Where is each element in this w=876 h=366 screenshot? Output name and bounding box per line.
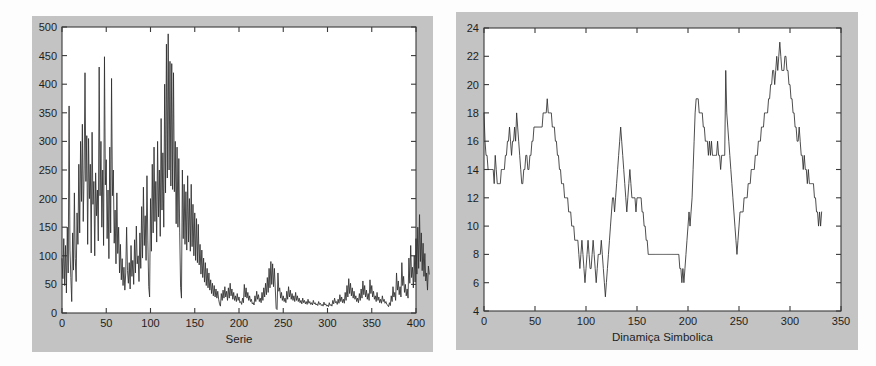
y-tick-label: 100 xyxy=(39,250,57,262)
y-tick-label: 10 xyxy=(467,220,479,232)
y-tick-label: 200 xyxy=(39,193,57,205)
y-tick-label: 250 xyxy=(39,164,57,176)
x-tick-label: 300 xyxy=(318,317,336,329)
y-tick-label: 50 xyxy=(45,278,57,290)
y-tick-label: 24 xyxy=(467,22,479,34)
x-tick-label: 100 xyxy=(577,315,595,327)
figure-page: 0501001502002503003504004505000501001502… xyxy=(0,0,876,366)
y-tick-label: 500 xyxy=(39,21,57,33)
x-tick-label: 150 xyxy=(186,317,204,329)
x-tick-label: 200 xyxy=(679,315,697,327)
plot-area xyxy=(62,27,416,313)
y-tick-label: 14 xyxy=(467,164,479,176)
y-tick-label: 150 xyxy=(39,221,57,233)
x-tick-label: 0 xyxy=(481,315,487,327)
y-tick-label: 0 xyxy=(51,307,57,319)
serie-chart-svg: 0501001502002503003504004505000501001502… xyxy=(32,16,433,352)
y-tick-label: 4 xyxy=(473,305,479,317)
x-tick-label: 300 xyxy=(781,315,799,327)
y-tick-label: 300 xyxy=(39,135,57,147)
x-tick-label: 400 xyxy=(407,317,425,329)
x-axis-title: Dinamiça Simbolica xyxy=(612,331,714,343)
x-tick-label: 50 xyxy=(100,317,112,329)
x-tick-label: 0 xyxy=(59,317,65,329)
x-tick-label: 100 xyxy=(141,317,159,329)
x-tick-label: 150 xyxy=(628,315,646,327)
y-tick-label: 450 xyxy=(39,50,57,62)
y-tick-label: 350 xyxy=(39,107,57,119)
right-figure-panel: 4681012141618202224050100150200250300350… xyxy=(456,12,858,350)
y-tick-label: 18 xyxy=(467,107,479,119)
y-tick-label: 20 xyxy=(467,79,479,91)
serie-chart: 0501001502002503003504004505000501001502… xyxy=(32,16,433,352)
x-axis-title: Serie xyxy=(226,333,253,345)
x-tick-label: 200 xyxy=(230,317,248,329)
y-tick-label: 22 xyxy=(467,50,479,62)
left-figure-panel: 0501001502002503003504004505000501001502… xyxy=(32,16,433,352)
y-tick-label: 12 xyxy=(467,192,479,204)
y-tick-label: 400 xyxy=(39,78,57,90)
x-tick-label: 350 xyxy=(363,317,381,329)
dinamica-chart-svg: 4681012141618202224050100150200250300350… xyxy=(456,12,858,350)
y-tick-label: 16 xyxy=(467,135,479,147)
dinamica-chart: 4681012141618202224050100150200250300350… xyxy=(456,12,858,350)
x-tick-label: 250 xyxy=(730,315,748,327)
y-tick-label: 8 xyxy=(473,248,479,260)
x-tick-label: 50 xyxy=(529,315,541,327)
x-tick-label: 350 xyxy=(832,315,850,327)
x-tick-label: 250 xyxy=(274,317,292,329)
y-tick-label: 6 xyxy=(473,277,479,289)
